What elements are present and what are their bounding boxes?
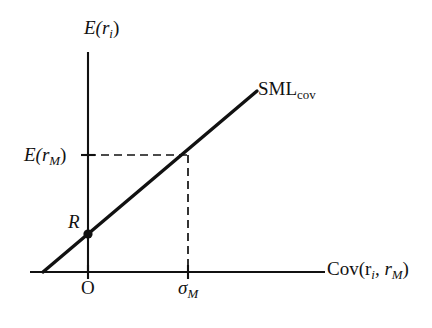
sml-cov-label: SMLcov [258,79,316,98]
sml-cov-label-subscript: cov [297,87,316,102]
x-axis-label-subscript-i: i [371,267,375,282]
y-axis-label-text: E(r [84,17,109,38]
risk-free-point-label: R [68,212,80,231]
y-tick-label-subscript: M [49,153,60,168]
risk-free-point-marker [83,229,92,238]
y-tick-label-erm: E(rM) [24,145,66,164]
x-tick-label-sigma-m: σM [178,278,198,297]
x-axis-label-text: Cov(r [327,258,371,279]
origin-label: O [81,278,95,297]
x-axis-label-mid: , r [375,258,392,279]
y-tick-label-text: E(r [24,144,49,165]
x-axis-label-subscript-m: M [392,267,403,282]
y-axis-label-subscript: i [109,26,113,41]
x-axis-label-close: ) [403,258,409,279]
y-axis-label-close: ) [113,17,119,38]
x-tick-label-subscript: M [187,286,198,301]
x-tick-label-text: σ [178,277,187,298]
y-tick-label-close: ) [60,144,66,165]
x-axis-label: Cov(ri, rM) [327,259,409,278]
sml-cov-label-text: SML [258,78,297,99]
y-axis-label: E(ri) [84,18,119,37]
